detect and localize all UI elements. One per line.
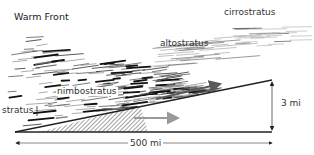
diagram-canvas xyxy=(0,0,314,155)
cloud-streak xyxy=(140,72,161,74)
cloud-streak xyxy=(27,37,44,38)
cloud-streak xyxy=(9,96,21,98)
cloud-streak xyxy=(154,73,177,75)
cloud-streak xyxy=(36,65,56,68)
cloud-streak xyxy=(194,54,220,56)
cloud-streak xyxy=(89,73,104,74)
cloud-streak xyxy=(37,44,48,46)
cloud-streak xyxy=(52,60,64,62)
cloud-streak xyxy=(249,33,275,34)
cloud-streak xyxy=(274,41,291,42)
cloud-streak xyxy=(215,56,260,60)
cloud-streak xyxy=(233,28,262,29)
warm-front-diagram: Warm Front cirrostratus altostratus nimb… xyxy=(0,0,314,155)
cloud-streak xyxy=(57,117,66,118)
cloud-streak xyxy=(24,49,33,50)
cloud-streak xyxy=(286,31,307,32)
cloud-streak xyxy=(81,97,107,101)
cloud-streak xyxy=(126,65,137,66)
cloud-streak xyxy=(72,113,82,114)
cloud-streak xyxy=(78,80,86,81)
cloud-streak xyxy=(56,54,84,56)
cloud-streak xyxy=(39,82,52,83)
diagram-title: Warm Front xyxy=(14,12,69,22)
cloud-streak xyxy=(96,80,114,82)
cloud-streak xyxy=(168,63,195,65)
cloud-streak xyxy=(114,78,120,79)
cloud-streak xyxy=(131,83,147,84)
cloud-streak xyxy=(251,36,270,37)
cloud-streak xyxy=(26,76,40,78)
cloud-streak xyxy=(242,42,257,43)
cloud-streak xyxy=(291,36,312,37)
cloud-streak xyxy=(58,98,69,99)
cloud-streak xyxy=(15,68,25,69)
cloud-streak xyxy=(45,105,52,106)
cloud-streak xyxy=(21,71,33,72)
cloud-streak xyxy=(122,102,147,106)
cloud-streak xyxy=(54,73,68,75)
cloud-streak xyxy=(76,108,95,109)
cloud-streak xyxy=(9,76,23,77)
cloud-streak xyxy=(13,60,27,61)
cloud-streak xyxy=(134,80,147,82)
cloud-streak xyxy=(32,68,39,69)
cloud-streak xyxy=(160,49,181,51)
cloud-streak xyxy=(155,91,164,92)
cloud-streak xyxy=(290,40,312,41)
cloud-streak xyxy=(28,118,53,120)
cloud-streak xyxy=(262,37,277,38)
cloud-streak xyxy=(110,64,123,65)
cloud-streak xyxy=(37,98,59,100)
cloud-streak xyxy=(85,104,97,105)
cloud-streak xyxy=(104,63,114,64)
cloud-streak xyxy=(23,124,41,126)
cirrostratus-label: cirrostratus xyxy=(224,8,275,17)
cloud-streak xyxy=(48,102,56,103)
cloud-streak xyxy=(233,35,262,36)
nimbostratus-label: nimbostratus xyxy=(56,87,118,96)
cloud-streak xyxy=(212,44,229,45)
cloud-streak xyxy=(18,58,35,60)
cloud-streak xyxy=(154,63,198,67)
cloud-streak xyxy=(152,69,166,71)
cloud-streak xyxy=(32,111,56,114)
stratus-label: stratus xyxy=(2,106,33,115)
distance-label: 500 mi xyxy=(128,139,163,148)
cloud-streak xyxy=(256,45,272,46)
cloud-streak xyxy=(34,54,57,57)
cloud-streak xyxy=(96,70,112,71)
altostratus-label: altostratus xyxy=(160,39,208,48)
cloud-streak xyxy=(26,40,41,42)
cloud-streak xyxy=(235,43,250,44)
cloud-streak xyxy=(55,115,63,116)
cloud-streak xyxy=(111,72,131,73)
cloud-streak xyxy=(214,52,230,53)
cloud-streak xyxy=(46,96,58,98)
cloud-streak xyxy=(124,92,139,93)
height-label: 3 mi xyxy=(281,99,301,108)
cloud-streak xyxy=(158,55,173,56)
cloud-streak xyxy=(39,92,47,93)
cloud-streak xyxy=(282,27,312,28)
cloud-streak xyxy=(268,44,284,45)
cloud-streak xyxy=(176,53,199,55)
